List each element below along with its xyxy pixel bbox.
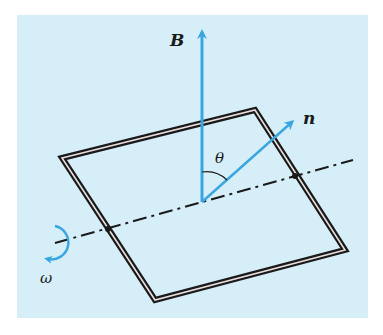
- b-field-label: B: [169, 30, 184, 50]
- omega-label: ω: [40, 269, 52, 287]
- normal-label: n: [303, 108, 315, 128]
- theta-label: θ: [215, 149, 224, 167]
- theta-angle-arc: [202, 172, 227, 180]
- axis-pivot-right: [292, 173, 298, 179]
- axis-pivot-left: [105, 226, 111, 232]
- coil-diagram: B n θ ω: [0, 0, 383, 335]
